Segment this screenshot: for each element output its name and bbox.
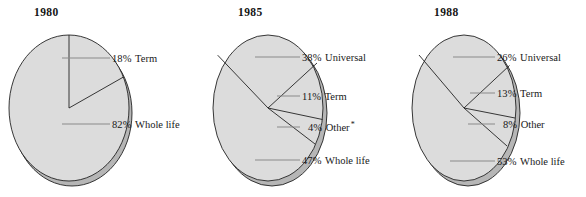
callout-pct: 13% [497,88,517,99]
callout-1988-universal: 26%Universal [497,51,562,64]
pie-chart-figure: 1980 18%Term 82%Whole life 1985 [0,0,586,197]
callout-1988-whole-life: 53%Whole life [497,155,566,168]
callout-1988-other: 8%Other [503,118,546,131]
callout-name: Whole life [135,119,180,130]
callout-pct: 8% [503,119,517,130]
callout-name: Universal [325,52,366,63]
callout-name: Universal [520,52,561,63]
callout-pct: 38% [302,52,322,63]
callout-name: Whole life [325,155,370,166]
callout-name: Other [326,122,350,133]
callout-footnote-marker: * [351,120,355,129]
callout-1985-term: 11%Term [302,90,348,103]
pie-svg-1985 [195,0,395,197]
callout-name: Other [521,119,545,130]
callout-name: Term [325,91,347,102]
callout-1988-term: 13%Term [497,87,543,100]
callout-pct: 47% [302,155,322,166]
callout-pct: 53% [497,156,517,167]
callout-1980-term: 18%Term [112,52,158,65]
callout-pct: 4% [308,122,322,133]
callout-name: Whole life [520,156,565,167]
pie-svg-1980 [0,0,195,197]
chart-panel-1980: 1980 18%Term 82%Whole life [0,0,195,197]
callout-1985-whole-life: 47%Whole life [302,154,371,167]
callout-name: Term [520,88,542,99]
callout-1985-other: 4%Other* [308,121,355,134]
callout-name: Term [135,53,157,64]
callout-pct: 18% [112,53,132,64]
callout-pct: 82% [112,119,132,130]
callout-1985-universal: 38%Universal [302,51,367,64]
callout-pct: 11% [302,91,321,102]
callout-pct: 26% [497,52,517,63]
callout-1980-whole-life: 82%Whole life [112,118,181,131]
chart-panel-1985: 1985 38%Universal 11%Term 4%Other* 47%Wh… [195,0,395,197]
chart-panel-1988: 1988 26%Universal 13%Term 8%Other 53%Who… [395,0,586,197]
